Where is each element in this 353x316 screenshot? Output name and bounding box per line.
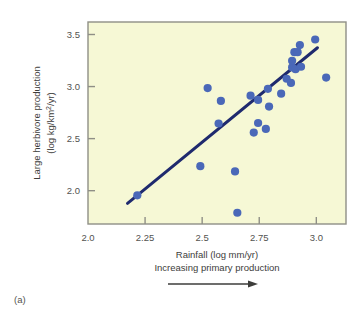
data-point xyxy=(254,119,262,127)
data-point xyxy=(196,162,204,170)
figure-panel-a: 2.02.53.03.5 2.02.252.52.753.0 Large her… xyxy=(0,0,353,316)
data-point xyxy=(311,35,319,43)
x-tick-label: 2.25 xyxy=(136,232,155,243)
data-point xyxy=(250,128,258,136)
data-point xyxy=(233,209,241,217)
data-point xyxy=(322,74,330,82)
data-point xyxy=(246,92,254,100)
data-point xyxy=(264,85,272,93)
data-point xyxy=(133,191,141,199)
data-point xyxy=(214,119,222,127)
data-point xyxy=(287,79,295,87)
data-point xyxy=(262,125,270,133)
y-tick-label: 3.5 xyxy=(67,29,80,40)
x-tick-label: 2.75 xyxy=(250,232,269,243)
data-point xyxy=(277,90,285,98)
y-tick-label: 3.0 xyxy=(67,81,80,92)
y-axis-title-line2: (log kg/km2/yr) xyxy=(45,92,56,153)
data-point xyxy=(288,57,296,65)
y-tick-label: 2.0 xyxy=(67,185,80,196)
x-axis-tick-labels: 2.02.252.52.753.0 xyxy=(81,232,323,243)
y-axis-tick-labels: 2.02.53.03.5 xyxy=(67,29,80,196)
x-axis-title: Rainfall (log mm/yr) xyxy=(176,249,258,260)
data-point xyxy=(297,63,305,71)
x-axis-subtitle: Increasing primary production xyxy=(154,262,279,273)
increasing-production-arrow xyxy=(168,280,258,287)
data-point xyxy=(265,102,273,110)
x-tick-label: 3.0 xyxy=(310,232,323,243)
y-axis-title: Large herbivore production (log kg/km2/y… xyxy=(31,66,56,180)
panel-label: (a) xyxy=(14,294,26,305)
data-point xyxy=(293,48,301,56)
scatter-plot-svg: 2.02.53.03.5 2.02.252.52.753.0 Large her… xyxy=(0,0,353,316)
x-tick-label: 2.5 xyxy=(196,232,209,243)
data-point xyxy=(296,41,304,49)
y-tick-label: 2.5 xyxy=(67,133,80,144)
data-point xyxy=(231,167,239,175)
x-tick-label: 2.0 xyxy=(81,232,94,243)
data-point xyxy=(204,84,212,92)
y-axis-title-line1: Large herbivore production xyxy=(31,66,42,180)
data-point xyxy=(217,97,225,105)
data-point xyxy=(254,96,262,104)
